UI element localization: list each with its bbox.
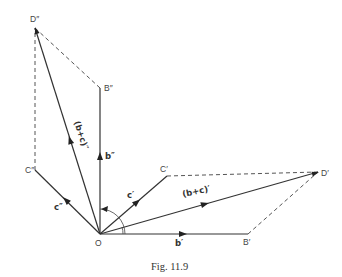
label-vector-bc1: (b+c)′ (181, 183, 211, 199)
label-point-d1: D′ (321, 168, 329, 178)
arrowhead-bc2-icon (66, 135, 74, 144)
dashed-b1-d1 (248, 172, 318, 234)
arrowhead-bc1-icon (200, 200, 209, 208)
label-vector-c1: c′ (127, 190, 135, 200)
arrowhead-d2-tip-icon (33, 26, 40, 34)
arrowhead-d1-tip-icon (311, 170, 319, 177)
label-vector-c2: c″ (54, 202, 63, 212)
dashed-c1-d1 (167, 172, 318, 176)
label-point-c2: C″ (25, 165, 34, 175)
label-point-d2: D″ (30, 14, 39, 24)
figure-caption: Fig. 11.9 (151, 261, 188, 272)
label-point-o: O (95, 238, 102, 248)
label-point-b2: B″ (104, 83, 113, 93)
label-vector-b2: b″ (105, 151, 115, 161)
vector-c1 (100, 176, 167, 234)
label-vector-bc2: (b+c)″ (72, 120, 91, 152)
arrowhead-b1-icon (179, 231, 187, 237)
label-vector-b1: b′ (175, 238, 184, 248)
rotation-arc-arrowhead-icon (101, 206, 108, 212)
label-point-c1: C′ (160, 164, 168, 174)
label-point-b1: B′ (243, 237, 251, 247)
vector-rotation-diagram: D″ B″ C″ C′ D′ O B′ b′ c′ (b+c)′ b″ c″ (… (0, 0, 342, 277)
arrowhead-b2-icon (97, 152, 103, 160)
